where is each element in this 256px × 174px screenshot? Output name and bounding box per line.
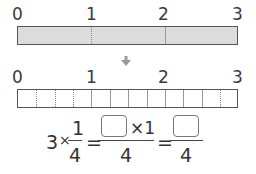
fraction3-denominator: 4	[180, 144, 192, 166]
top-label-3: 3	[232, 6, 243, 23]
bottom-label-0: 0	[12, 69, 23, 86]
bottom-bar	[17, 89, 238, 108]
divider	[183, 90, 184, 107]
times-one: ×1	[130, 118, 155, 138]
divider	[165, 27, 166, 44]
divider	[73, 90, 74, 107]
answer-box-numerator[interactable]	[101, 115, 127, 137]
divider	[91, 90, 92, 107]
whole-number: 3	[46, 131, 58, 153]
divider	[220, 90, 221, 107]
fraction1-denominator: 4	[69, 144, 81, 166]
bottom-label-3: 3	[232, 69, 243, 86]
bottom-label-1: 1	[86, 69, 97, 86]
divider	[110, 90, 111, 107]
divider	[55, 90, 56, 107]
equals-sign-2: =	[157, 131, 173, 153]
top-label-0: 0	[12, 6, 23, 23]
top-label-1: 1	[86, 6, 97, 23]
fraction2-bar	[98, 140, 154, 141]
fraction1-bar	[68, 140, 82, 141]
bottom-label-2: 2	[158, 69, 169, 86]
answer-box-result[interactable]	[173, 115, 199, 137]
fraction1-numerator: 1	[72, 117, 84, 139]
divider	[202, 90, 203, 107]
fraction2-denominator: 4	[120, 144, 132, 166]
top-bar	[17, 26, 238, 45]
divider	[128, 90, 129, 107]
equation: 3 × 1 4 = ×1 4 = 4	[0, 116, 256, 174]
divider	[165, 90, 166, 107]
divider	[147, 90, 148, 107]
equals-sign-1: =	[86, 131, 102, 153]
divider	[36, 90, 37, 107]
top-label-2: 2	[158, 6, 169, 23]
divider	[91, 27, 92, 44]
down-arrow-icon	[121, 56, 131, 66]
fraction3-bar	[170, 140, 203, 141]
